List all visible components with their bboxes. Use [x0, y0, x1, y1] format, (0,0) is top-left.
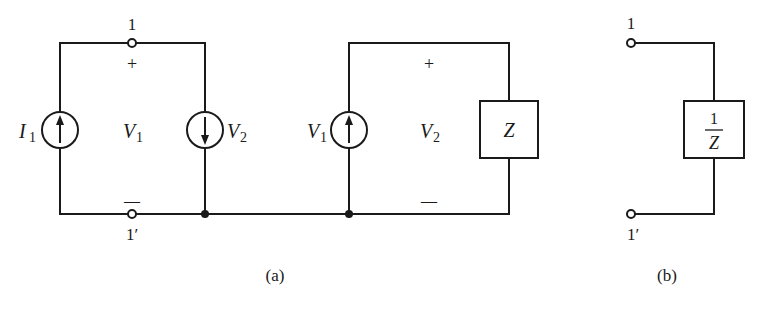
svg-text:1: 1 — [29, 130, 36, 145]
label-port-voltage-v1: V 1 — [123, 120, 143, 145]
impedance-label: Z — [503, 119, 515, 141]
svg-text:I: I — [18, 120, 27, 142]
terminal-b-1 — [627, 39, 635, 47]
wire-b-top — [634, 43, 714, 101]
label-source-v1: V 1 — [307, 120, 327, 145]
caption-b: (b) — [657, 266, 677, 285]
label-load-voltage-v2: V 2 — [420, 120, 440, 145]
terminal-1-label: 1 — [128, 15, 137, 34]
wire-top-right — [136, 43, 205, 112]
admittance-numerator: 1 — [710, 110, 718, 127]
gyrator-equivalent-circuit-diagram: 1 + — 1′ I 1 V 1 V 2 Z V 1 — [0, 0, 769, 310]
wire-b-bottom — [634, 158, 714, 214]
terminal-b-1-prime-label: 1′ — [627, 225, 639, 244]
dependent-source-v2 — [187, 112, 223, 148]
terminal-b-1-prime — [627, 210, 635, 218]
dependent-source-v1 — [331, 112, 367, 148]
label-i1: I 1 — [18, 120, 36, 145]
figure-b-equivalent-circuit: 1 Z 1 1′ — [627, 14, 744, 244]
figure-a-port-circuit: 1 + — 1′ I 1 V 1 V 2 — [18, 15, 349, 244]
svg-text:1: 1 — [320, 130, 327, 145]
port-minus-sign: — — [123, 192, 141, 209]
label-source-v2: V 2 — [227, 120, 247, 145]
terminal-b-1-label: 1 — [627, 14, 636, 33]
terminal-1 — [128, 39, 136, 47]
terminal-1-prime — [128, 210, 136, 218]
terminal-1-prime-label: 1′ — [126, 225, 138, 244]
caption-a: (a) — [266, 266, 285, 285]
current-source-i1 — [42, 112, 78, 148]
svg-text:2: 2 — [240, 130, 247, 145]
wire-left-top — [60, 43, 128, 112]
load-plus-sign: + — [424, 54, 434, 74]
admittance-denominator: Z — [709, 133, 720, 153]
figure-a-load-circuit: Z V 1 V 2 + — — [307, 43, 538, 218]
svg-text:2: 2 — [433, 130, 440, 145]
port-plus-sign: + — [127, 54, 137, 74]
junction-node-left — [201, 210, 209, 218]
junction-node-right — [345, 210, 353, 218]
wire-left-bottom — [60, 148, 128, 214]
svg-text:1: 1 — [136, 130, 143, 145]
load-minus-sign: — — [420, 192, 438, 209]
